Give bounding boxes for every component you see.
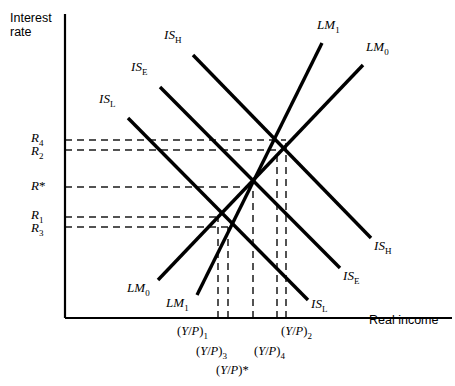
y-tick-label-R2: R2 [31, 144, 44, 161]
curve-label-IS_H-top: ISH [164, 28, 182, 45]
curve-label-IS_E-bottom: ISE [343, 269, 360, 286]
curve-label-IS_L-bottom: ISL [311, 297, 328, 314]
curve-label-IS_L-top: ISL [99, 92, 116, 109]
curve-label-LM_1-top: LM1 [317, 18, 340, 35]
curve-label-LM_0-top: LM0 [366, 40, 389, 57]
figure-canvas: R4R2R*R1R3(Y/P)1(Y/P)3(Y/P)*(Y/P)4(Y/P)2… [0, 0, 455, 386]
y-tick-label-R3: R3 [31, 221, 44, 238]
y-tick-label-Rstar: R* [31, 179, 46, 192]
curve-label-IS_H-bottom: ISH [374, 239, 392, 256]
x-tick-label-YPstar: (Y/P)* [216, 364, 249, 377]
x-tick-label-YP1: (Y/P)1 [177, 325, 208, 341]
y-axis-label-line1: Interest [10, 11, 52, 25]
curve-LM_0 [158, 65, 363, 280]
curve-label-LM_1-bottom: LM1 [166, 296, 189, 313]
y-axis-label: Interest rate [10, 11, 52, 40]
curve-label-LM_0-bottom: LM0 [127, 281, 150, 298]
x-tick-label-YP2: (Y/P)2 [281, 325, 312, 341]
x-tick-label-YP3: (Y/P)3 [196, 345, 227, 361]
curves-group [128, 43, 371, 300]
x-axis-label: Real income [369, 313, 438, 327]
isLm-plot-svg [0, 0, 455, 386]
x-tick-label-YP4: (Y/P)4 [254, 345, 285, 361]
y-axis-label-line2: rate [10, 25, 52, 39]
axes-group [65, 14, 452, 318]
curve-label-IS_E-top: ISE [131, 60, 148, 77]
